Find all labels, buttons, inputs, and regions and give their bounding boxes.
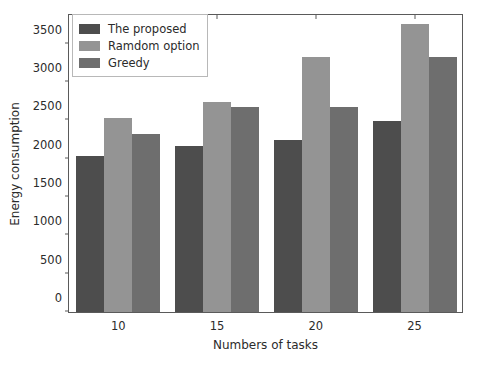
legend-label: Ramdom option — [108, 39, 200, 53]
bar — [401, 24, 429, 312]
bar — [373, 121, 401, 312]
x-tick-mark — [414, 15, 415, 19]
bar — [302, 57, 330, 312]
x-tick-label: 10 — [111, 312, 126, 333]
x-tick-label: 15 — [210, 312, 225, 333]
y-tick-label: 3000 — [33, 61, 69, 75]
legend-item[interactable]: The proposed — [79, 20, 200, 37]
y-tick-label: 3500 — [33, 23, 69, 37]
bar — [203, 102, 231, 312]
bar — [132, 134, 160, 312]
legend-swatch-icon — [79, 24, 100, 34]
y-tick-mark — [65, 272, 69, 273]
bar — [76, 156, 104, 312]
bar — [104, 118, 132, 312]
legend-swatch-icon — [79, 58, 100, 68]
x-axis-label: Numbers of tasks — [68, 338, 463, 352]
y-tick-label: 2000 — [33, 138, 69, 152]
chart-legend: The proposedRamdom optionGreedy — [72, 14, 208, 77]
y-tick-mark — [65, 196, 69, 197]
x-tick-label: 25 — [407, 312, 422, 333]
y-axis-label-text: Energy consumption — [8, 102, 22, 226]
y-tick-mark — [65, 81, 69, 82]
y-tick-label: 1500 — [33, 176, 69, 190]
legend-item[interactable]: Greedy — [79, 54, 200, 71]
y-tick-label: 500 — [40, 253, 69, 267]
bar — [274, 140, 302, 312]
bar-chart-figure: Energy consumption 050010001500200025003… — [0, 0, 479, 367]
x-tick-mark — [217, 15, 218, 19]
y-axis-label: Energy consumption — [6, 14, 24, 313]
y-tick-mark — [65, 311, 69, 312]
bar — [330, 107, 358, 312]
y-tick-label: 1000 — [33, 214, 69, 228]
legend-label: Greedy — [108, 56, 150, 70]
legend-label: The proposed — [108, 22, 187, 36]
legend-item[interactable]: Ramdom option — [79, 37, 200, 54]
y-tick-mark — [65, 42, 69, 43]
legend-swatch-icon — [79, 41, 100, 51]
bar — [429, 57, 457, 312]
bar — [175, 146, 203, 312]
y-tick-mark — [65, 234, 69, 235]
x-tick-label: 20 — [309, 312, 324, 333]
y-tick-mark — [65, 119, 69, 120]
y-tick-label: 2500 — [33, 99, 69, 113]
x-tick-mark — [315, 15, 316, 19]
bar — [231, 107, 259, 312]
y-tick-label: 0 — [55, 291, 69, 305]
y-tick-mark — [65, 157, 69, 158]
